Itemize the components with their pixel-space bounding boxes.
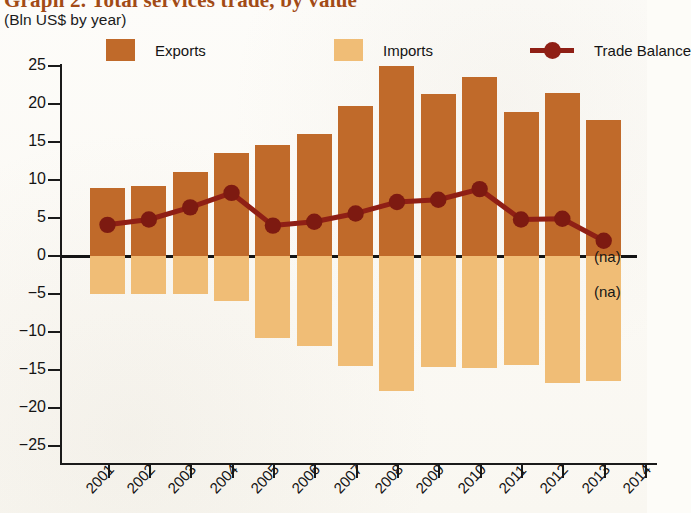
trade-balance-marker-2011: [513, 211, 529, 227]
trade-balance-marker-2005: [265, 217, 281, 233]
trade-balance-marker-2012: [554, 211, 570, 227]
trade-balance-marker-2010: [471, 181, 487, 197]
trade-balance-marker-2004: [223, 185, 239, 201]
trade-balance-marker-2009: [430, 192, 446, 208]
trade-balance-marker-2003: [182, 199, 198, 215]
trade-balance-marker-2007: [347, 205, 363, 221]
trade-balance-marker-2008: [389, 194, 405, 210]
trade-balance-marker-2006: [306, 214, 322, 230]
trade-balance-marker-2001: [99, 217, 115, 233]
trade-balance-marker-2013: [596, 233, 612, 249]
trade-balance-marker-2002: [141, 211, 157, 227]
